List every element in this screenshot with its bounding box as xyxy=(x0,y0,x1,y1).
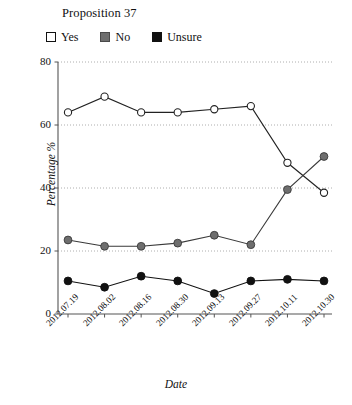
series-line-yes xyxy=(68,97,324,193)
chart-root: Proposition 37 Yes No Unsure Percentage … xyxy=(0,0,352,405)
series-lines xyxy=(68,97,324,294)
data-point-no[interactable] xyxy=(320,153,328,161)
data-point-unsure[interactable] xyxy=(137,272,145,280)
x-axis-label: Date xyxy=(0,378,352,390)
data-point-no[interactable] xyxy=(174,239,182,247)
data-point-no[interactable] xyxy=(64,236,72,244)
y-tick-label: 20 xyxy=(25,244,51,256)
data-point-no[interactable] xyxy=(210,231,218,239)
data-point-yes[interactable] xyxy=(211,106,218,113)
y-tick-label: 40 xyxy=(25,181,51,193)
data-point-no[interactable] xyxy=(284,186,292,194)
data-point-yes[interactable] xyxy=(247,103,254,110)
data-point-unsure[interactable] xyxy=(284,275,292,283)
data-point-unsure[interactable] xyxy=(101,283,109,291)
data-point-yes[interactable] xyxy=(284,159,291,166)
data-point-yes[interactable] xyxy=(101,93,108,100)
data-point-yes[interactable] xyxy=(174,109,181,116)
y-axis-label: Percentage % xyxy=(45,114,57,234)
data-point-unsure[interactable] xyxy=(247,277,255,285)
data-point-no[interactable] xyxy=(247,241,255,249)
y-tick-label: 80 xyxy=(25,55,51,67)
data-point-yes[interactable] xyxy=(64,109,71,116)
series-line-no xyxy=(68,157,324,247)
data-point-unsure[interactable] xyxy=(174,277,182,285)
plot-area: Percentage % Date 020406080 2012.07.1920… xyxy=(0,0,352,405)
data-point-yes[interactable] xyxy=(320,189,327,196)
data-point-no[interactable] xyxy=(137,242,145,250)
data-point-unsure[interactable] xyxy=(64,277,72,285)
gridlines xyxy=(58,62,332,251)
data-point-no[interactable] xyxy=(101,242,109,250)
data-point-unsure[interactable] xyxy=(320,277,328,285)
data-point-yes[interactable] xyxy=(138,109,145,116)
y-tick-label: 60 xyxy=(25,118,51,130)
series-markers xyxy=(64,93,328,297)
